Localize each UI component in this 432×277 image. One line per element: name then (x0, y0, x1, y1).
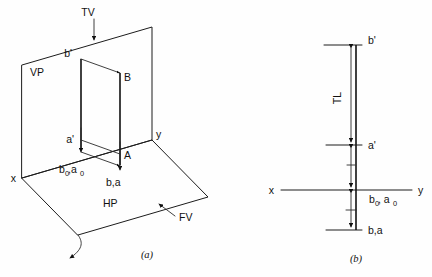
label-axis-y-b: y (418, 184, 424, 196)
panel-a-pictorial: TV VP b' B a' A b 0 ,a 0 b,a x y HP FV (… (11, 6, 208, 261)
projector-bprime-to-B (81, 59, 120, 73)
label-ba-a: b,a (106, 176, 121, 188)
label-point-A: A (124, 149, 131, 161)
panel-b-projection: b' a' TL b 0 , a 0 b,a x y (b) (269, 34, 424, 265)
label-b0-a0-group-b: b 0 , a 0 (369, 193, 397, 208)
hp-rotation-arrow (70, 235, 81, 258)
engineering-drawing-figure: TV VP b' B a' A b 0 ,a 0 b,a x y HP FV (… (0, 0, 432, 277)
caption-panel-b: (b) (350, 253, 363, 265)
label-a-prime: a' (66, 133, 74, 145)
label-hp: HP (103, 197, 118, 209)
label-axis-x-b: x (269, 184, 275, 196)
dimension-xy-to-ba (346, 193, 356, 227)
label-b0a0-mid: ,a (68, 163, 77, 175)
label-b0a0-sub2-b: 0 (393, 199, 397, 208)
label-a-prime-b: a' (368, 139, 376, 151)
label-tv: TV (81, 6, 94, 18)
label-point-B: B (124, 71, 131, 83)
projector-aprime-to-A (81, 140, 120, 154)
label-b-prime-b: b' (368, 34, 376, 46)
label-b0a0-sub2: 0 (80, 169, 84, 178)
label-true-length: TL (331, 92, 343, 104)
label-axis-x-a: x (11, 172, 17, 184)
caption-panel-a: (a) (141, 249, 154, 261)
label-axis-y-a: y (156, 128, 162, 140)
label-b0a0-mid-b: , a (378, 193, 390, 205)
label-vp: VP (30, 66, 44, 78)
fv-arrow (159, 204, 175, 216)
vertical-plane-vp (22, 27, 152, 178)
figure-canvas: TV VP b' B a' A b 0 ,a 0 b,a x y HP FV (… (0, 0, 432, 277)
label-ba-b: b,a (368, 224, 383, 236)
label-b0-a0-group-a: b 0 ,a 0 (59, 163, 84, 178)
label-fv: FV (179, 211, 192, 223)
dimension-aprime-to-xy (347, 148, 355, 187)
label-b-prime: b' (64, 47, 72, 59)
